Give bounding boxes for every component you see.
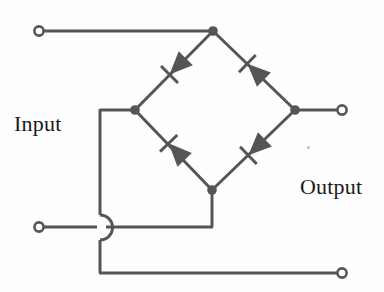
output-top-terminal[interactable] <box>337 105 346 114</box>
input-label: Input <box>14 113 61 135</box>
bridge-left-node <box>130 105 140 115</box>
output-bottom-terminal[interactable] <box>337 268 346 277</box>
bridge-right-node <box>290 105 300 115</box>
circuit-diagram: Input Output <box>0 0 384 292</box>
scan-artifact-speck <box>307 146 310 149</box>
output-label: Output <box>300 176 362 198</box>
circuit-schematic-canvas <box>0 0 384 292</box>
input-bottom-terminal[interactable] <box>34 222 43 231</box>
bridge-top-node <box>208 26 218 36</box>
bridge-bottom-node <box>207 185 217 195</box>
input-top-terminal[interactable] <box>34 26 43 35</box>
